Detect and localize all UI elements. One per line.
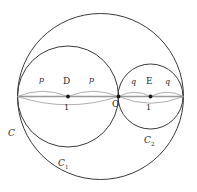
label-circle-C2-subscript: 2 (151, 141, 155, 147)
label-one-left: 1 (64, 104, 69, 112)
arc-p-left (18, 91, 69, 96)
label-circle-C2: C2 (144, 136, 154, 147)
label-p-right: p (89, 76, 94, 84)
label-point-D: D (63, 77, 70, 86)
label-circle-C2-base: C (144, 135, 151, 145)
circles-figure (0, 0, 197, 192)
label-q-right: q (165, 78, 170, 86)
label-circle-C1: C1 (58, 159, 68, 170)
label-circle-C: C (8, 129, 15, 138)
label-circle-C1-subscript: 1 (65, 164, 69, 170)
label-p-left: p (39, 76, 44, 84)
point-O (117, 95, 121, 99)
point-E (149, 95, 153, 99)
label-q-left: q (131, 78, 136, 86)
label-point-O: O (112, 100, 119, 109)
geometry-diagram-canvas: p p 1 q q 1 D O E C C1 C2 (0, 0, 197, 192)
arc-p-right (68, 91, 119, 96)
point-D (66, 95, 70, 99)
label-one-right: 1 (146, 104, 151, 112)
label-circle-C1-base: C (58, 158, 65, 168)
label-point-E: E (146, 77, 153, 86)
